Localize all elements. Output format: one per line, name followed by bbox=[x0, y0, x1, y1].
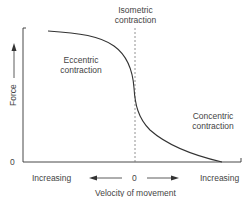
force-velocity-diagram bbox=[0, 0, 252, 197]
eccentric-label: Eccentric contraction bbox=[56, 55, 106, 75]
y-axis-title: Force bbox=[8, 80, 18, 110]
right-arrow-head-icon bbox=[171, 176, 179, 181]
x-right-tick: Increasing bbox=[200, 173, 239, 183]
y-zero-tick: 0 bbox=[10, 157, 15, 167]
force-arrow-head-icon bbox=[12, 43, 17, 51]
x-zero-tick: 0 bbox=[132, 173, 137, 183]
concentric-label: Concentric contraction bbox=[186, 111, 240, 131]
x-left-tick: Increasing bbox=[32, 173, 71, 183]
force-velocity-curve bbox=[48, 31, 222, 162]
left-arrow-head-icon bbox=[89, 176, 97, 181]
isometric-label: Isometric contraction bbox=[113, 5, 158, 25]
x-axis-title: Velocity of movement bbox=[95, 188, 175, 197]
